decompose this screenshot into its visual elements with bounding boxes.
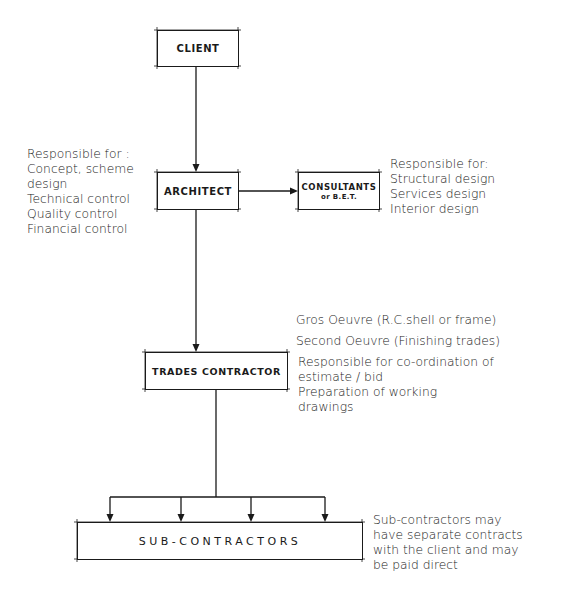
- sub-contractors-label: SUB-CONTRACTORS: [139, 536, 302, 547]
- sub-contractors-node: SUB-CONTRACTORS: [77, 522, 363, 560]
- note-line: Responsible for co-ordination of: [298, 355, 494, 370]
- note-line: Preparation of working: [298, 385, 494, 400]
- consultants-responsibilities-note: Responsible for: Structural design Servi…: [390, 157, 495, 217]
- note-line: estimate / bid: [298, 370, 494, 385]
- note-line: drawings: [298, 400, 494, 415]
- trades-contractor-node: TRADES CONTRACTOR: [145, 352, 288, 390]
- note-line: Services design: [390, 187, 495, 202]
- sub-contractors-note: Sub-contractors may have separate contra…: [373, 513, 523, 573]
- note-line: Technical control: [27, 192, 134, 207]
- note-line: Responsible for:: [390, 157, 495, 172]
- trades-contractor-responsibilities-note: Responsible for co-ordination of estimat…: [298, 355, 494, 415]
- note-line: be paid direct: [373, 558, 523, 573]
- note-line: Quality control: [27, 207, 134, 222]
- consultants-sublabel: or B.E.T.: [321, 193, 357, 201]
- note-line: Structural design: [390, 172, 495, 187]
- note-line: Gros Oeuvre (R.C.shell or frame): [296, 310, 500, 331]
- note-line: Second Oeuvre (Finishing trades): [296, 331, 500, 352]
- consultants-node: CONSULTANTS or B.E.T.: [298, 172, 380, 210]
- note-line: Responsible for :: [27, 147, 134, 162]
- note-line: Concept, scheme: [27, 162, 134, 177]
- note-line: design: [27, 177, 134, 192]
- trades-contractor-label: TRADES CONTRACTOR: [152, 366, 281, 377]
- note-line: with the client and may: [373, 543, 523, 558]
- note-line: Sub-contractors may: [373, 513, 523, 528]
- architect-label: ARCHITECT: [164, 186, 232, 197]
- client-node: CLIENT: [157, 30, 239, 67]
- consultants-label: CONSULTANTS: [302, 182, 377, 193]
- note-line: have separate contracts: [373, 528, 523, 543]
- connector-lines: [0, 0, 576, 601]
- architect-responsibilities-note: Responsible for : Concept, scheme design…: [27, 147, 134, 237]
- trades-work-scope-note: Gros Oeuvre (R.C.shell or frame) Second …: [296, 310, 500, 352]
- architect-node: ARCHITECT: [157, 172, 239, 210]
- note-line: Financial control: [27, 222, 134, 237]
- org-diagram: CLIENT ARCHITECT CONSULTANTS or B.E.T. T…: [0, 0, 576, 601]
- note-line: Interior design: [390, 202, 495, 217]
- client-label: CLIENT: [176, 43, 219, 54]
